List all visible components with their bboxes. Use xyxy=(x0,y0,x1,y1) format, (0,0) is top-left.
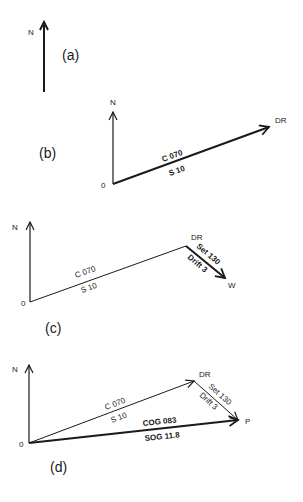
panel-label: (b) xyxy=(39,145,56,161)
course-label: C 070 xyxy=(103,396,127,412)
p-label: P xyxy=(245,417,250,426)
course-label: C 070 xyxy=(74,264,98,280)
north-label: N xyxy=(12,223,18,232)
sog-label: SOG 11.8 xyxy=(144,430,180,443)
panel-label: (d) xyxy=(50,459,67,475)
panel-c: N 0 DR W C 070 S 10 Set 130 Drift 3 (c) xyxy=(12,222,236,336)
panel-label: (c) xyxy=(45,320,61,336)
north-label: N xyxy=(110,98,116,107)
speed-label: S 10 xyxy=(168,164,187,178)
dr-label: DR xyxy=(199,370,211,379)
w-label: W xyxy=(228,281,236,290)
origin-label: 0 xyxy=(19,440,24,449)
speed-label: S 10 xyxy=(109,410,128,424)
dr-label: DR xyxy=(191,233,203,242)
origin-label: 0 xyxy=(101,181,106,190)
panel-label: (a) xyxy=(62,47,79,63)
panel-a: N (a) xyxy=(28,22,79,92)
north-label: N xyxy=(28,28,34,37)
origin-label: 0 xyxy=(21,299,26,308)
course-vector xyxy=(113,127,269,184)
vector-diagram: N (a) N 0 DR C 070 S 10 (b) N 0 DR W C 0… xyxy=(0,0,303,502)
panel-d: N 0 DR P C 070 S 10 Set 130 Drift 3 COG … xyxy=(12,365,250,475)
panel-b: N 0 DR C 070 S 10 (b) xyxy=(39,98,287,190)
course-vector xyxy=(30,246,186,302)
north-label: N xyxy=(12,365,18,374)
dr-label: DR xyxy=(275,116,287,125)
cog-label: COG 083 xyxy=(142,415,177,428)
